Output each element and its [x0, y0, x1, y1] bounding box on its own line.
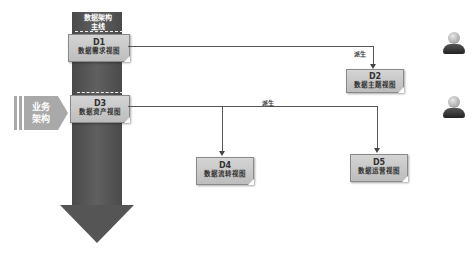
connector-d3-d4-vertical [222, 106, 223, 154]
stripe [14, 96, 17, 130]
node-code: D4 [197, 161, 253, 170]
node-name: 数据运营视图 [351, 167, 407, 176]
node-code: D3 [71, 99, 129, 108]
node-code: D2 [347, 72, 403, 81]
node-name: 数据流转视图 [197, 170, 253, 179]
person-icon [443, 32, 465, 54]
main-axis-label: 数据架构主线 [82, 14, 114, 32]
connector-d1-d2-horizontal [128, 46, 373, 47]
label-line-1: 业务 [24, 101, 58, 113]
person-icon [443, 96, 465, 118]
node-name: 数据需求视图 [69, 47, 129, 56]
dashed-divider [77, 92, 123, 93]
node-name: 数据资产视图 [71, 108, 129, 117]
node-d4: D4 数据流转视图 [196, 157, 254, 185]
arrow-head-icon [374, 148, 380, 153]
person-head [448, 96, 460, 108]
edge-label-derive: 派生 [262, 98, 274, 107]
node-name: 数据主题视图 [347, 81, 403, 90]
node-code: D1 [69, 38, 129, 47]
connector-d3-d5-vertical [377, 106, 378, 151]
stripe [19, 96, 22, 130]
arrow-head-icon [219, 151, 225, 156]
dashed-divider [75, 31, 123, 32]
node-d5: D5 数据运营视图 [350, 154, 408, 182]
person-body [443, 44, 465, 54]
node-code: D5 [351, 158, 407, 167]
node-d1: D1 数据需求视图 [68, 34, 130, 62]
person-body [443, 108, 465, 118]
connector-d3-horizontal [128, 106, 377, 107]
person-head [448, 32, 460, 44]
main-axis-arrow-head [60, 205, 134, 243]
business-architecture-tip [58, 96, 68, 130]
node-d2: D2 数据主题视图 [346, 69, 404, 93]
edge-label-derive: 派生 [354, 49, 366, 58]
node-d3: D3 数据资产视图 [70, 95, 130, 123]
label-line-2: 架构 [24, 113, 58, 125]
business-architecture-shape: 业务 架构 [14, 96, 66, 130]
business-architecture-label: 业务 架构 [24, 101, 58, 125]
